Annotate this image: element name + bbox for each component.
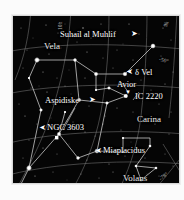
label-miaplacidus: Miaplacidus (103, 146, 145, 155)
label-carina: Carina (137, 115, 161, 124)
star-chart: Suhail al Muhlif ➤ δ Vel ➤ Avior ▼ IC 22… (12, 15, 180, 184)
arrow-down-icon: ▼ (125, 89, 131, 95)
label-ngc-3603: NGC 3603 (47, 123, 84, 132)
label-aspidiske: Aspidiske (45, 96, 79, 105)
label-vela: Vela (44, 42, 60, 51)
arrow-right-icon: ➤ (131, 30, 138, 38)
arrow-left-icon-miaplacidus: ➤ (95, 147, 102, 155)
arrow-right-icon-aspidiske: ➤ (89, 96, 96, 104)
label-suhail-al-muhlif: Suhail al Muhlif (60, 30, 116, 39)
label-volans: Volans (123, 174, 147, 183)
arrow-left-icon: ➤ (126, 68, 133, 76)
grid-label-ra-10h: 10h (58, 22, 64, 30)
label-avior: Avior (117, 80, 136, 89)
label-ic-2220: IC 2220 (135, 92, 163, 101)
arrow-left-icon-ngc: ➤ (39, 124, 46, 132)
label-delta-vel: δ Vel (135, 68, 152, 77)
